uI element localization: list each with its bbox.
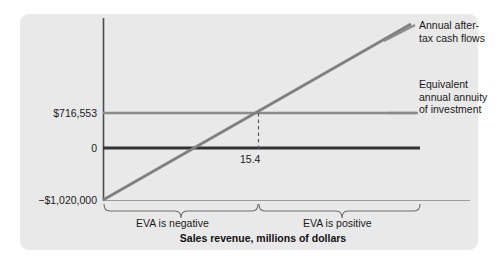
eva-negative-label: EVA is negative bbox=[136, 217, 209, 230]
chart-figure: Annual after-tax project cash flow $716,… bbox=[0, 0, 498, 268]
y-tick-label-716553: $716,553 bbox=[47, 107, 97, 120]
y-tick-label-negative-1020000: −$1,020,000 bbox=[22, 194, 97, 207]
series-label-annual-after-tax-cash-flows: Annual after-tax cash flows bbox=[419, 19, 485, 44]
x-tick-label-breakeven: 15.4 bbox=[240, 153, 260, 166]
eva-positive-brace bbox=[259, 204, 420, 218]
eva-positive-label: EVA is positive bbox=[303, 217, 372, 230]
eva-negative-brace bbox=[104, 204, 258, 218]
series-label-equivalent-annual-annuity: Equivalent annual annuity of investment bbox=[419, 78, 489, 116]
leader-line-series-1 bbox=[384, 25, 415, 41]
x-axis-title: Sales revenue, millions of dollars bbox=[103, 232, 423, 244]
y-tick-label-zero: 0 bbox=[47, 142, 97, 155]
